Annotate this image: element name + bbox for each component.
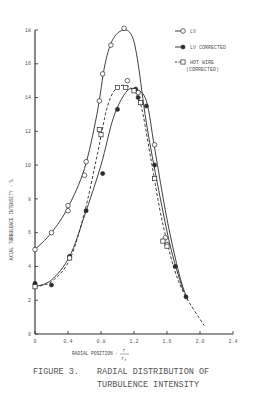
y-axis-label: AXIAL TURBULENCE INTENSITY - % — [9, 179, 14, 260]
legend-label-line2: (CORRECTED) — [186, 67, 219, 73]
data-point — [100, 72, 105, 77]
x-tick-label: 1.6 — [162, 339, 171, 345]
turbulence-chart: 02468101214161800.40.81.21.62.02.4 LVLV … — [0, 0, 254, 366]
filled-circle-icon — [181, 45, 185, 49]
x-axis-label-denominator: r₀ — [121, 356, 127, 361]
data-point — [82, 173, 87, 178]
open-square-icon — [181, 60, 185, 64]
y-tick-label: 16 — [25, 61, 31, 67]
data-point — [109, 43, 114, 48]
hot-wire-corrected-curve — [35, 85, 204, 325]
data-point — [144, 104, 148, 108]
curves — [35, 30, 204, 326]
x-axis-label: RADIAL POSITION - — [72, 351, 118, 356]
legend-label: LV CORRECTED — [190, 45, 226, 51]
data-point — [84, 209, 88, 213]
data-point — [97, 99, 102, 104]
data-point — [173, 264, 177, 268]
figure-caption: FIGURE 3.RADIAL DISTRIBUTION OF TURBULEN… — [33, 366, 209, 392]
x-axis-label-numerator: r — [123, 348, 126, 353]
data-markers — [33, 26, 188, 299]
x-tick-label: 0.4 — [63, 339, 72, 345]
y-tick-label: 14 — [25, 95, 31, 101]
y-tick-label: 8 — [28, 197, 31, 203]
data-point — [184, 295, 188, 299]
x-tick-label: 0 — [33, 339, 36, 345]
data-point — [124, 85, 128, 89]
data-point — [153, 177, 157, 181]
data-point — [122, 26, 127, 31]
caption-line-1: RADIAL DISTRIBUTION OF — [97, 367, 209, 377]
data-point — [84, 159, 89, 164]
data-point — [115, 107, 119, 111]
x-tick-label: 2.4 — [228, 339, 237, 345]
data-point — [99, 133, 103, 137]
data-point — [153, 163, 157, 167]
data-point — [152, 143, 157, 148]
data-point — [33, 285, 37, 289]
data-point — [115, 85, 119, 89]
data-point — [49, 283, 53, 287]
data-point — [68, 256, 72, 260]
data-point — [139, 101, 143, 105]
y-tick-label: 10 — [25, 163, 31, 169]
y-tick-label: 2 — [28, 298, 31, 304]
y-tick-label: 6 — [28, 230, 31, 236]
y-tick-label: 4 — [28, 264, 31, 270]
lv-curve — [35, 30, 184, 292]
x-tick-label: 0.8 — [96, 339, 105, 345]
figure-number: FIGURE 3. — [33, 366, 97, 379]
data-point — [101, 171, 105, 175]
data-point — [165, 244, 169, 248]
open-circle-icon — [181, 29, 186, 34]
lv-corrected-curve — [35, 88, 188, 300]
legend: LVLV CORRECTEDHOT WIRE(CORRECTED) — [175, 29, 226, 73]
data-point — [49, 230, 54, 235]
x-tick-label: 2.0 — [195, 339, 204, 345]
data-point — [136, 95, 140, 99]
axes: 02468101214161800.40.81.21.62.02.4 — [25, 28, 238, 345]
data-point — [66, 208, 71, 213]
data-point — [125, 78, 130, 83]
data-point — [161, 239, 165, 243]
caption-line-2: TURBULENCE INTENSITY — [97, 380, 199, 390]
data-point — [66, 203, 71, 208]
data-point — [97, 128, 101, 132]
data-point — [132, 89, 136, 93]
legend-label: HOT WIRE — [190, 60, 214, 66]
y-tick-label: 0 — [28, 332, 31, 338]
x-tick-label: 1.2 — [129, 339, 138, 345]
legend-label: LV — [190, 29, 196, 35]
data-point — [33, 247, 38, 252]
y-tick-label: 12 — [25, 129, 31, 135]
y-tick-label: 18 — [25, 28, 31, 34]
